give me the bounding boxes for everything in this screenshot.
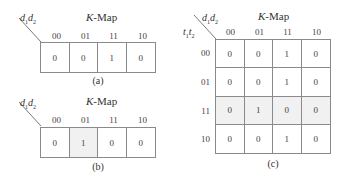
- kmap-title-text: Map: [269, 10, 289, 22]
- column-variable-label: d1d2: [20, 97, 36, 110]
- column-variable-label: d1d2: [202, 12, 218, 25]
- kmap-cell: 0: [41, 128, 70, 157]
- kmap-cell: 0: [70, 43, 99, 72]
- kmap-cell: 0: [127, 128, 156, 157]
- column-header: 00: [216, 27, 245, 37]
- kmap-cell: 1: [273, 68, 302, 96]
- kmap-cell: 0: [98, 128, 127, 157]
- kmap-cell: 0: [302, 40, 331, 68]
- kmap-cell: 0: [216, 40, 245, 68]
- kmap-cell-shaded: 1: [70, 128, 99, 157]
- column-header: 00: [42, 31, 71, 41]
- kmap-cell: 0: [302, 125, 331, 153]
- kmap-cell: 1: [273, 125, 302, 153]
- kmap-grid: 0 0 1 0: [40, 42, 156, 73]
- kmap-cell: 1: [273, 40, 302, 68]
- kmap-title-text: Map: [97, 95, 117, 107]
- row-variable-label: t1t2: [183, 26, 195, 39]
- column-header: 01: [71, 115, 100, 125]
- kmap-title: K-Map: [258, 10, 289, 22]
- column-header: 10: [128, 31, 157, 41]
- column-header: 10: [302, 27, 331, 37]
- kmap-cell: 0: [245, 125, 274, 153]
- kmap-cell-shaded: 1: [245, 97, 274, 125]
- panel-caption: (a): [83, 75, 113, 86]
- column-variable-label: d1d2: [20, 12, 36, 25]
- column-header: 11: [273, 27, 302, 37]
- panel-caption: (c): [258, 158, 288, 169]
- row-header: 00: [188, 48, 210, 58]
- kmap-cell: 0: [302, 68, 331, 96]
- row-header: 01: [188, 77, 210, 87]
- kmap-grid: 0 1 0 0: [40, 127, 156, 158]
- kmap-cell: 0: [41, 43, 70, 72]
- kmap-cell-shaded: 0: [302, 97, 331, 125]
- column-header: 01: [71, 31, 100, 41]
- kmap-grid: 0 0 1 0 0 0 1 0 0 1 0 0 0 0 1 0: [215, 39, 331, 154]
- kmap-title: K-Map: [86, 95, 117, 107]
- kmap-cell-shaded: 0: [273, 97, 302, 125]
- column-header: 11: [99, 115, 128, 125]
- kmap-cell-shaded: 0: [216, 97, 245, 125]
- kmap-cell: 0: [127, 43, 156, 72]
- column-header: 00: [42, 115, 71, 125]
- column-header: 10: [128, 115, 157, 125]
- panel-caption: (b): [83, 161, 113, 172]
- kmap-cell: 0: [245, 68, 274, 96]
- row-header: 11: [188, 106, 210, 116]
- kmap-cell: 0: [216, 68, 245, 96]
- column-header: 01: [245, 27, 274, 37]
- column-header: 11: [99, 31, 128, 41]
- kmap-cell: 0: [216, 125, 245, 153]
- kmap-title-text: Map: [97, 11, 117, 23]
- row-header: 10: [188, 134, 210, 144]
- kmap-title: K-Map: [86, 11, 117, 23]
- kmap-cell: 0: [245, 40, 274, 68]
- kmap-cell: 1: [98, 43, 127, 72]
